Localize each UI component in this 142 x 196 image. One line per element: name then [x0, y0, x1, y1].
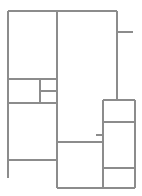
right-lower-cell	[103, 168, 135, 188]
mid-center-lower-cell	[40, 91, 57, 103]
floor-plan-canvas	[0, 0, 142, 196]
right-middle-cell	[103, 122, 135, 168]
floor-plan-drawing	[0, 0, 142, 196]
right-upper-cell	[103, 100, 135, 122]
lower-left-room	[8, 103, 57, 160]
upper-left-room	[8, 11, 57, 79]
bottom-center-room	[57, 142, 103, 188]
mid-center-upper-cell	[40, 79, 57, 91]
mid-left-small-room	[8, 79, 40, 103]
